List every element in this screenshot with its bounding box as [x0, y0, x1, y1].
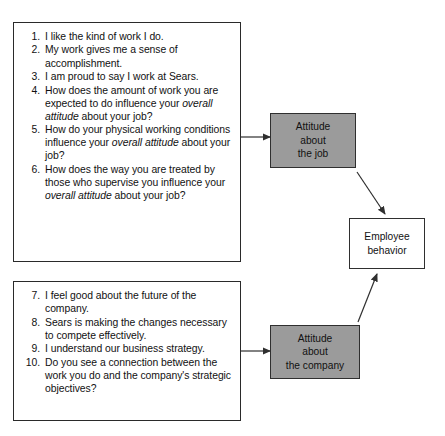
node-line: Attitude [298, 332, 333, 346]
question-text: How does the way you are treated by thos… [45, 163, 232, 202]
list-item: 7. I feel good about the future of the c… [20, 289, 232, 315]
list-item: 3. I am proud to say I work at Sears. [20, 70, 232, 83]
question-text: How does the amount of work you are expe… [45, 84, 232, 123]
company-attitude-question-panel: 7. I feel good about the future of the c… [13, 281, 241, 421]
node-employee-behavior: Employee behavior [349, 218, 425, 269]
question-number: 5. [20, 123, 45, 136]
connector-attitude-company-to-behavior [358, 274, 377, 322]
question-list: 1. I like the kind of work I do. 2. My w… [14, 23, 240, 202]
question-text: My work gives me a sense of accomplishme… [45, 43, 232, 69]
question-text: Do you see a connection between the work… [45, 356, 232, 395]
list-item: 9. I understand our business strategy. [20, 342, 232, 355]
question-list: 7. I feel good about the future of the c… [14, 282, 240, 395]
list-item: 6. How does the way you are treated by t… [20, 163, 232, 202]
list-item: 10. Do you see a connection between the … [20, 356, 232, 395]
question-text: I am proud to say I work at Sears. [45, 70, 232, 83]
list-item: 2. My work gives me a sense of accomplis… [20, 43, 232, 69]
question-number: 9. [20, 342, 45, 355]
question-number: 1. [20, 30, 45, 43]
job-attitude-question-panel: 1. I like the kind of work I do. 2. My w… [13, 22, 241, 262]
node-attitude-about-the-company: Attitude about the company [270, 325, 360, 379]
question-text: Sears is making the changes necessary to… [45, 316, 232, 342]
question-number: 10. [20, 356, 45, 369]
node-line: about [300, 134, 326, 148]
list-item: 1. I like the kind of work I do. [20, 30, 232, 43]
question-text: How do your physical working conditions … [45, 123, 232, 162]
node-attitude-about-the-job: Attitude about the job [270, 113, 356, 168]
question-number: 6. [20, 163, 45, 176]
node-line: Employee [364, 230, 409, 244]
connector-attitude-job-to-behavior [357, 172, 385, 214]
node-line: Attitude [296, 120, 331, 134]
node-line: the company [286, 359, 344, 373]
node-line: the job [298, 147, 329, 161]
question-number: 4. [20, 84, 45, 97]
question-number: 8. [20, 316, 45, 329]
question-number: 2. [20, 43, 45, 56]
question-text: I feel good about the future of the comp… [45, 289, 232, 315]
question-number: 3. [20, 70, 45, 83]
list-item: 5. How do your physical working conditio… [20, 123, 232, 162]
list-item: 8. Sears is making the changes necessary… [20, 316, 232, 342]
node-line: behavior [367, 244, 406, 258]
node-line: about [302, 345, 328, 359]
list-item: 4. How does the amount of work you are e… [20, 84, 232, 123]
question-number: 7. [20, 289, 45, 302]
question-text: I like the kind of work I do. [45, 30, 232, 43]
question-text: I understand our business strategy. [45, 342, 232, 355]
